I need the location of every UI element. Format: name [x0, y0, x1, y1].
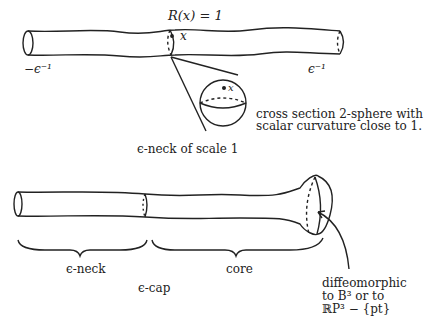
diffeo-arrow: [318, 212, 349, 269]
point-x-label: x: [180, 30, 187, 43]
right-end-label: ϵ⁻¹: [308, 63, 326, 76]
epsilon-cap-tube: [14, 175, 332, 234]
core-label: core: [226, 263, 253, 276]
cross-section-line2: scalar curvature close to 1.: [256, 120, 422, 133]
left-end-label: −ϵ⁻¹: [24, 63, 52, 76]
cap-label: ϵ-cap: [138, 282, 170, 295]
zoom-line-upper: [171, 57, 238, 75]
curvature-label: R(x) = 1: [168, 9, 223, 22]
core-brace: [152, 238, 323, 256]
neck-brace: [18, 240, 147, 256]
neck-caption: ϵ-neck of scale 1: [137, 143, 238, 156]
cross-section-sphere: [200, 80, 246, 126]
diffeo-line3: ℝP³ − {pt}: [322, 303, 390, 316]
sphere-point-label: x: [228, 81, 234, 94]
zoom-line-lower: [171, 57, 206, 131]
neck-label: ϵ-neck: [66, 263, 106, 276]
